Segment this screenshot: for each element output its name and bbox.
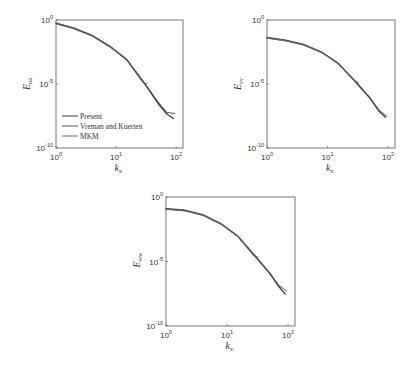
figure: 100101102 10010-510-10 kx Euu Present Vr…	[0, 0, 409, 369]
y-ticks: 10010-510-10	[146, 191, 168, 331]
legend: Present Vreman and Kuerten MKM	[62, 112, 143, 141]
x-tick-label: 102	[282, 329, 294, 340]
y-tick-label: 10-5	[149, 256, 163, 267]
legend-entry-vreman-kuerten: Vreman and Kuerten	[62, 122, 143, 131]
legend-label: Vreman and Kuerten	[80, 122, 143, 131]
series-line-mkm	[166, 209, 258, 257]
x-tick-label: 101	[110, 151, 122, 162]
y-axis-label: Euu	[21, 77, 33, 91]
series-line-present	[166, 209, 285, 294]
x-tick-label: 100	[261, 151, 273, 162]
y-tick-label: 10-10	[36, 142, 53, 153]
x-tick-label: 100	[160, 329, 172, 340]
y-tick-label: 10-10	[247, 142, 264, 153]
series-line-mkm	[267, 38, 358, 82]
y-tick-label: 10-5	[39, 78, 53, 89]
legend-label: Present	[80, 112, 103, 121]
y-axis-label: Evv	[232, 78, 244, 91]
y-axis-label: Eww	[131, 252, 143, 268]
x-axis-label: kx	[115, 162, 122, 174]
series-line-present	[267, 38, 385, 117]
y-ticks: 10010-510-10	[247, 14, 269, 153]
series-line-vreman-and-kuerten	[166, 208, 287, 291]
x-tick-label: 102	[382, 151, 394, 162]
legend-entry-present: Present	[62, 112, 103, 121]
y-ticks: 10010-510-10	[36, 14, 58, 153]
y-tick-label: 100	[41, 14, 53, 25]
plot-frame	[267, 20, 395, 148]
x-tick-label: 100	[50, 151, 62, 162]
x-axis-label: kx	[226, 340, 233, 352]
panel-evv: 100101102 10010-510-10 kx Evv	[232, 14, 395, 174]
x-tick-label: 101	[322, 151, 334, 162]
legend-entry-mkm: MKM	[62, 132, 99, 141]
y-tick-label: 10-10	[146, 320, 163, 331]
y-tick-label: 10-5	[250, 78, 264, 89]
x-axis-label: kx	[326, 162, 333, 174]
series-line-vreman-and-kuerten	[267, 37, 387, 116]
series-line-present	[56, 23, 173, 118]
y-tick-label: 100	[252, 14, 264, 25]
series-layer	[56, 23, 175, 119]
series-layer	[166, 208, 287, 294]
panel-eww: 100101102 10010-510-10 kx Eww	[131, 191, 295, 352]
x-tick-label: 101	[221, 329, 233, 340]
x-tick-label: 102	[170, 151, 182, 162]
plot-frame	[166, 197, 295, 326]
legend-label: MKM	[80, 132, 99, 141]
panel-euu: 100101102 10010-510-10 kx Euu Present Vr…	[21, 14, 183, 174]
y-tick-label: 100	[151, 191, 163, 202]
series-line-vreman-and-kuerten	[56, 23, 175, 114]
series-line-mkm	[56, 24, 146, 84]
series-layer	[267, 37, 387, 117]
